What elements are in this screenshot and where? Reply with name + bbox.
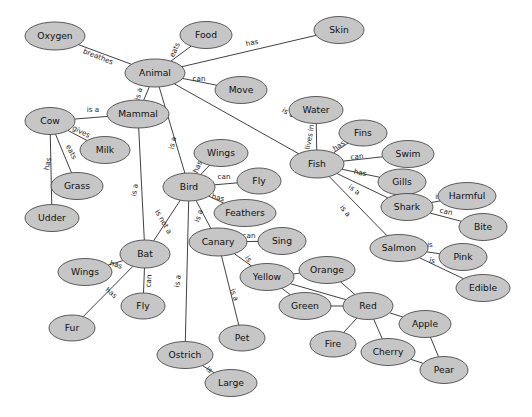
node-ostrich[interactable]: Ostrich bbox=[157, 342, 213, 369]
node-label-fur: Fur bbox=[65, 322, 80, 333]
node-fly_bt[interactable]: Fly bbox=[121, 293, 165, 319]
node-animal[interactable]: Animal bbox=[125, 59, 185, 87]
node-wings_bt[interactable]: Wings bbox=[58, 259, 112, 286]
node-swim[interactable]: Swim bbox=[382, 141, 434, 168]
edge-label-bat-fly_bt: can bbox=[143, 274, 153, 288]
node-label-mammal: Mammal bbox=[118, 108, 158, 119]
node-bird[interactable]: Bird bbox=[163, 173, 215, 201]
node-harmful[interactable]: Harmful bbox=[438, 183, 496, 210]
edge-label-animal-food: eats bbox=[167, 41, 182, 59]
node-sing[interactable]: Sing bbox=[258, 228, 306, 255]
node-pink[interactable]: Pink bbox=[439, 244, 487, 271]
node-label-udder: Udder bbox=[38, 212, 66, 223]
node-wings_b[interactable]: Wings bbox=[194, 140, 248, 167]
node-shark[interactable]: Shark bbox=[381, 194, 433, 221]
node-fins[interactable]: Fins bbox=[339, 120, 387, 146]
node-udder[interactable]: Udder bbox=[25, 205, 79, 232]
node-label-red: Red bbox=[359, 300, 376, 311]
node-label-gills: Gills bbox=[392, 176, 412, 187]
node-label-bite: Bite bbox=[474, 221, 492, 232]
node-fish[interactable]: Fish bbox=[290, 150, 344, 178]
node-fly_b[interactable]: Fly bbox=[237, 168, 281, 194]
edge-label-animal-skin: has bbox=[245, 37, 260, 48]
node-label-skin: Skin bbox=[329, 24, 349, 35]
node-food[interactable]: Food bbox=[180, 22, 232, 49]
edge-animal-mammal bbox=[144, 87, 150, 100]
edge-red-apple bbox=[390, 313, 403, 317]
node-label-food: Food bbox=[195, 29, 217, 40]
node-label-shark: Shark bbox=[394, 201, 421, 212]
node-label-wings_bt: Wings bbox=[71, 266, 99, 277]
nodes-layer: OxygenFoodSkinAnimalMoveWaterMammalCowFi… bbox=[25, 17, 510, 397]
node-label-fly_b: Fly bbox=[252, 175, 266, 186]
node-pear[interactable]: Pear bbox=[420, 357, 468, 384]
node-fur[interactable]: Fur bbox=[49, 315, 95, 341]
node-label-pet: Pet bbox=[235, 332, 250, 343]
node-large[interactable]: Large bbox=[205, 370, 257, 397]
edge-label-bird-fly_b: can bbox=[218, 172, 231, 181]
node-green[interactable]: Green bbox=[279, 293, 331, 320]
edge-shark-harmful bbox=[432, 201, 441, 203]
node-orange[interactable]: Orange bbox=[299, 257, 355, 284]
node-cow[interactable]: Cow bbox=[25, 108, 75, 135]
node-label-green: Green bbox=[291, 300, 319, 311]
edge-yellow-orange bbox=[293, 273, 300, 274]
node-apple[interactable]: Apple bbox=[399, 311, 451, 338]
node-edible[interactable]: Edible bbox=[456, 275, 510, 302]
node-label-pear: Pear bbox=[434, 364, 454, 375]
node-water[interactable]: Water bbox=[289, 97, 343, 124]
edge-label-bird-ostrich: is a bbox=[172, 274, 182, 287]
node-cherry[interactable]: Cherry bbox=[361, 339, 415, 366]
node-label-water: Water bbox=[302, 104, 329, 115]
node-label-canary: Canary bbox=[202, 236, 235, 247]
node-label-fire: Fire bbox=[325, 338, 342, 349]
edge-label-fish-swim: can bbox=[350, 151, 364, 162]
edge-animal-bird bbox=[159, 87, 185, 173]
node-canary[interactable]: Canary bbox=[189, 228, 247, 256]
node-label-animal: Animal bbox=[139, 67, 171, 78]
edge-cherry-pear bbox=[411, 359, 423, 363]
edge-label-animal-mammal: is a bbox=[133, 87, 145, 101]
edge-label-cow-mammal: is a bbox=[87, 105, 99, 114]
edge-label-canary-yellow: is bbox=[243, 254, 254, 264]
node-label-bird: Bird bbox=[180, 181, 198, 192]
node-milk[interactable]: Milk bbox=[80, 137, 130, 164]
edge-label-fish-salmon: is a bbox=[338, 203, 353, 218]
node-bite[interactable]: Bite bbox=[459, 214, 507, 241]
edge-label-animal-bird: is a bbox=[167, 136, 178, 150]
edge-apple-pear bbox=[430, 337, 438, 357]
edge-label-canary-pet: is a bbox=[228, 287, 241, 302]
node-label-fish: Fish bbox=[308, 158, 326, 169]
edge-label-bird-feathers: has bbox=[211, 191, 226, 203]
node-label-milk: Milk bbox=[96, 144, 115, 155]
node-pet[interactable]: Pet bbox=[219, 325, 265, 351]
node-label-cherry: Cherry bbox=[373, 346, 404, 357]
node-skin[interactable]: Skin bbox=[314, 17, 364, 44]
edge-bird-fly_b bbox=[215, 183, 238, 185]
node-label-sing: Sing bbox=[272, 235, 292, 246]
node-label-cow: Cow bbox=[40, 115, 60, 126]
node-label-apple: Apple bbox=[412, 318, 439, 329]
node-label-edible: Edible bbox=[469, 282, 498, 293]
edge-mammal-bat bbox=[139, 128, 145, 240]
node-label-yellow: Yellow bbox=[252, 271, 282, 282]
node-grass[interactable]: Grass bbox=[51, 173, 103, 200]
node-gills[interactable]: Gills bbox=[378, 169, 426, 195]
node-label-pink: Pink bbox=[453, 251, 473, 262]
node-oxygen[interactable]: Oxygen bbox=[25, 22, 85, 50]
node-move[interactable]: Move bbox=[215, 77, 267, 104]
graph-svg: breatheseatshascanis ais ais ais agivese… bbox=[0, 0, 532, 417]
node-red[interactable]: Red bbox=[343, 293, 393, 320]
node-label-large: Large bbox=[218, 377, 244, 388]
node-bat[interactable]: Bat bbox=[120, 240, 170, 268]
edge-salmon-pink bbox=[427, 252, 440, 254]
node-label-salmon: Salmon bbox=[382, 242, 417, 253]
edge-red-cherry bbox=[374, 319, 383, 339]
edge-label-fish-gills: has bbox=[353, 167, 367, 178]
node-feathers[interactable]: Feathers bbox=[214, 200, 276, 227]
node-mammal[interactable]: Mammal bbox=[107, 100, 169, 128]
node-fire[interactable]: Fire bbox=[310, 331, 356, 357]
edge-label-animal-move: can bbox=[193, 74, 206, 83]
node-yellow[interactable]: Yellow bbox=[240, 264, 294, 291]
node-salmon[interactable]: Salmon bbox=[370, 235, 428, 262]
